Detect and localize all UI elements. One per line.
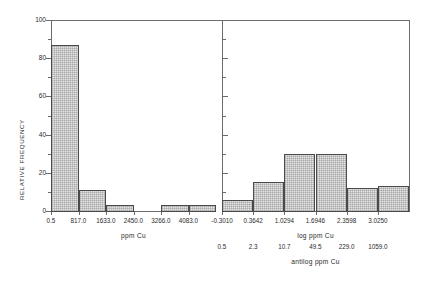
x-axis-tick	[161, 212, 162, 215]
y-axis-tick	[223, 96, 228, 97]
y-axis-tick	[48, 39, 51, 40]
x-axis-tick	[378, 212, 379, 215]
x-axis-tick	[222, 212, 223, 215]
y-axis-tick	[223, 154, 226, 155]
bar-logppm-2.3598	[347, 188, 378, 212]
y-tick-label-80: 80	[22, 54, 46, 61]
y-tick-label-60: 60	[22, 92, 46, 99]
bar-ppm-3266.0	[161, 205, 189, 212]
y-tick-label-0: 0	[22, 207, 46, 214]
bar-ppm-0.5	[51, 45, 79, 212]
x-axis-tick	[134, 212, 135, 215]
axis-line-vertical	[409, 20, 410, 212]
x-axis-tick	[347, 212, 348, 215]
y-axis-tick	[223, 39, 226, 40]
y-axis-tick	[223, 192, 226, 193]
x-tick-label-logppm-3.0250: 3.0250	[356, 217, 400, 224]
bar-ppm-817.0	[79, 190, 107, 212]
bar-ppm-4083.0	[189, 205, 217, 212]
y-axis-tick	[223, 77, 226, 78]
x-axis-tick	[106, 212, 107, 215]
bar-logppm-0.3642	[253, 182, 284, 212]
right-x-axis-title: log ppm Cu	[271, 232, 361, 239]
x-axis-tick	[284, 212, 285, 215]
x-tick-label-antilog-1059.0: 1059.0	[356, 243, 400, 250]
y-axis-tick	[46, 20, 51, 21]
bar-ppm-1633.0	[106, 205, 134, 212]
x-axis-tick	[253, 212, 254, 215]
figure-histogram-pair: RELATIVE FREQUENCY 0 20 40 60 80 100 0.5…	[0, 0, 435, 282]
y-axis-tick	[223, 116, 226, 117]
y-tick-label-40: 40	[22, 131, 46, 138]
bar-logppm-1.0294	[284, 154, 315, 212]
y-tick-label-20: 20	[22, 169, 46, 176]
right-x-axis-title-antilog: antilog ppm Cu	[266, 258, 366, 265]
axis-line-horizontal	[51, 20, 410, 21]
y-axis-tick	[223, 58, 228, 59]
y-tick-label-100: 100	[22, 16, 46, 23]
bar-logppm-3.0250	[378, 186, 409, 212]
left-x-axis-title: ppm Cu	[89, 232, 179, 239]
y-axis-tick	[223, 135, 228, 136]
y-axis-tick	[223, 20, 228, 21]
x-axis-tick	[316, 212, 317, 215]
y-axis-tick	[223, 173, 228, 174]
x-axis-tick	[189, 212, 190, 215]
x-axis-tick	[51, 212, 52, 215]
bar-logppm--0.3010	[222, 200, 253, 212]
x-axis-tick	[79, 212, 80, 215]
bar-logppm-1.6946	[316, 154, 347, 212]
